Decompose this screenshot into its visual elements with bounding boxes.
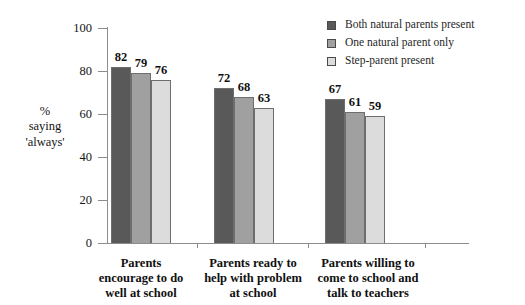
bar-step-parent-present: 76 bbox=[151, 80, 171, 243]
x-axis-group-separator-tick bbox=[308, 243, 309, 248]
bar-value-label: 61 bbox=[349, 96, 362, 109]
bar-value-label: 67 bbox=[329, 83, 342, 96]
x-axis-group-separator-tick bbox=[197, 243, 198, 248]
y-axis-tick-100 bbox=[98, 28, 107, 29]
y-axis-label-20: 20 bbox=[62, 194, 92, 207]
y-axis-label-60: 60 bbox=[62, 108, 92, 121]
plot-area: 82 79 76 72 68 63 67 bbox=[107, 28, 469, 243]
y-axis-tick-20 bbox=[98, 200, 107, 201]
bar-value-label: 72 bbox=[218, 72, 231, 85]
y-axis-label-100: 100 bbox=[62, 22, 92, 35]
bar-value-label: 59 bbox=[369, 100, 382, 113]
bar-step-parent-present: 59 bbox=[365, 116, 385, 243]
x-axis-line bbox=[107, 243, 469, 244]
y-axis-tick-0 bbox=[98, 243, 107, 244]
bar-value-label: 68 bbox=[238, 81, 251, 94]
bar-value-label: 76 bbox=[155, 64, 168, 77]
bar-value-label: 63 bbox=[258, 92, 271, 105]
bar-step-parent-present: 63 bbox=[254, 108, 274, 243]
y-axis-tick-40 bbox=[98, 157, 107, 158]
category-label-line-3: talk to teachers bbox=[300, 286, 436, 301]
bar-value-label: 79 bbox=[135, 57, 148, 70]
y-axis-tick-80 bbox=[98, 71, 107, 72]
category-label-line-1: Parents willing to bbox=[300, 256, 436, 271]
y-axis-label-80: 80 bbox=[62, 65, 92, 78]
category-label-line-2: come to school and bbox=[300, 271, 436, 286]
category-label-parents-willing-to-come: Parents willing to come to school and ta… bbox=[300, 256, 436, 301]
y-axis-tick-60 bbox=[98, 114, 107, 115]
y-axis-label-0: 0 bbox=[62, 237, 92, 250]
bar-both-natural-parents-present: 72 bbox=[214, 88, 234, 243]
bar-both-natural-parents-present: 67 bbox=[325, 99, 345, 243]
y-axis-label-40: 40 bbox=[62, 151, 92, 164]
x-axis-group-separator-tick bbox=[425, 243, 426, 248]
bar-value-label: 82 bbox=[115, 51, 128, 64]
bar-one-natural-parent-only: 68 bbox=[234, 97, 254, 243]
bar-one-natural-parent-only: 61 bbox=[345, 112, 365, 243]
bar-one-natural-parent-only: 79 bbox=[131, 73, 151, 243]
bar-both-natural-parents-present: 82 bbox=[111, 67, 131, 243]
